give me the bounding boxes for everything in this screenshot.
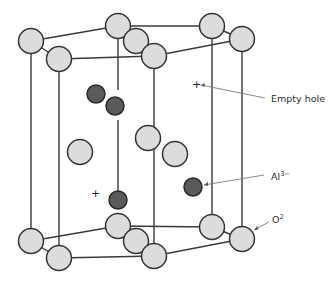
label-empty-hole: Empty hole — [271, 93, 325, 104]
arrowhead-icon — [254, 226, 259, 230]
aluminum-atom — [109, 191, 127, 209]
label-aluminum-ion: Al3− — [271, 170, 290, 182]
oxide-atom — [230, 227, 255, 252]
oxide-atom — [136, 126, 161, 151]
oxide-atom — [200, 14, 225, 39]
arrowhead-icon — [201, 83, 205, 87]
crystal-structure-diagram: + + Empty hole Al3− O2 — [0, 0, 335, 284]
annotation-oxide: O2 — [254, 213, 284, 230]
oxide-atom — [68, 140, 93, 165]
oxide-atom — [200, 215, 225, 240]
label-oxide-ion: O2 — [272, 213, 284, 225]
annotation-aluminum: Al3− — [204, 170, 290, 186]
arrowhead-icon — [204, 182, 208, 186]
aluminum-atom — [106, 97, 124, 115]
oxide-atom — [19, 29, 44, 54]
aluminum-atom — [184, 178, 202, 196]
empty-hole-marker: + — [192, 78, 201, 91]
oxide-atom — [163, 142, 188, 167]
annotation-empty-hole: Empty hole — [201, 83, 325, 104]
empty-hole-marker: + — [91, 187, 100, 200]
oxide-atom — [230, 27, 255, 52]
oxide-atom — [142, 44, 167, 69]
oxide-ions-top — [19, 14, 255, 72]
oxide-atom — [47, 47, 72, 72]
oxide-atom — [47, 246, 72, 271]
aluminum-atom — [87, 85, 105, 103]
oxide-ions-middle — [68, 126, 188, 167]
oxide-atom — [19, 229, 44, 254]
oxide-ions-bottom — [19, 214, 255, 271]
oxide-atom — [142, 244, 167, 269]
